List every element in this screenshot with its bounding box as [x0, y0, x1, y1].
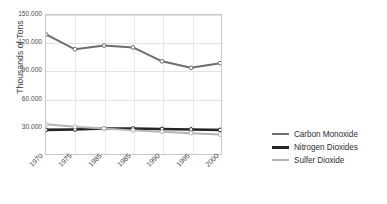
x-axis-tick-label: 1975 [57, 152, 73, 168]
legend-item: Sulfer Dioxide [272, 154, 384, 166]
line-chart: Thousands of Tons 150.000120.00090.00060… [0, 0, 387, 204]
legend-label: Carbon Monoxide [294, 130, 358, 139]
x-axis-tick-label: 1985 [87, 152, 103, 168]
legend-label: Sulfer Dioxide [294, 156, 344, 165]
legend-color-swatch [272, 159, 289, 161]
x-axis-tick-label: 1990 [145, 152, 161, 168]
legend-label: Nitrogen Dioxides [294, 143, 358, 152]
x-axis-tick-labels: 1970197519851985199019952000 [0, 0, 387, 204]
legend-color-swatch [272, 133, 289, 135]
x-axis-tick-label: 2000 [204, 152, 220, 168]
x-axis-tick-label: 1985 [116, 152, 132, 168]
x-axis-tick-label: 1995 [175, 152, 191, 168]
chart-legend: Carbon MonoxideNitrogen DioxidesSulfer D… [272, 128, 384, 167]
legend-color-swatch [272, 146, 289, 149]
x-axis-tick-label: 1970 [28, 152, 44, 168]
legend-item: Carbon Monoxide [272, 128, 384, 140]
legend-item: Nitrogen Dioxides [272, 141, 384, 153]
